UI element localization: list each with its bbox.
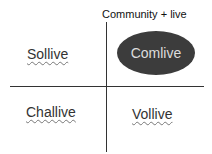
highlighted-quadrant-ellipse: Comlive (117, 31, 195, 75)
vertical-axis-line (106, 22, 107, 152)
horizontal-axis-line (10, 86, 204, 87)
axis-title: Community + live (102, 8, 187, 20)
quadrant-top-left-label: Sollive (27, 46, 68, 62)
quadrant-top-right-label: Comlive (131, 45, 182, 61)
quadrant-bottom-right-label: Vollive (132, 106, 172, 122)
quadrant-bottom-left-label: Challive (26, 104, 76, 120)
